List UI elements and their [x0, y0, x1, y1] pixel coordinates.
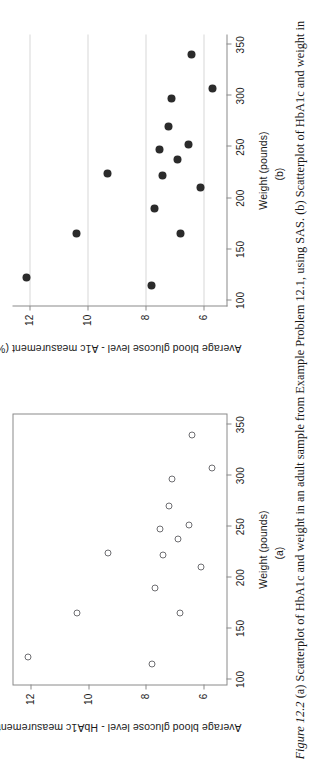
y-tick-label: 8 — [140, 314, 151, 333]
data-point — [156, 525, 163, 532]
data-point — [187, 50, 195, 58]
x-tick-label: 250 — [234, 138, 245, 155]
y-tick-label: 6 — [197, 314, 208, 333]
panel-label-a: (a) — [272, 546, 284, 559]
data-point — [176, 609, 183, 616]
y-tick-label: 6 — [197, 693, 208, 712]
x-tick-label: 150 — [234, 619, 245, 636]
y-tick-label: 12 — [25, 693, 36, 712]
x-tick — [226, 43, 231, 44]
y-tick — [29, 305, 30, 310]
x-tick-label: 100 — [234, 291, 245, 308]
y-tick — [30, 684, 31, 689]
data-point — [165, 502, 172, 509]
data-point — [167, 94, 175, 102]
data-point — [147, 281, 155, 289]
data-point — [176, 229, 184, 237]
x-tick — [226, 423, 231, 424]
data-point — [151, 584, 158, 591]
data-point — [184, 140, 192, 148]
x-tick — [226, 525, 231, 526]
x-axis-title-b: Weight (pounds) — [256, 34, 268, 306]
data-point — [197, 563, 204, 570]
data-point — [72, 229, 80, 237]
data-point — [155, 145, 163, 153]
x-tick — [226, 94, 231, 95]
y-tick — [203, 305, 204, 310]
y-tick — [87, 305, 88, 310]
data-point — [150, 204, 158, 212]
y-tick — [145, 684, 146, 689]
data-point — [73, 609, 80, 616]
data-point — [103, 169, 111, 177]
y-axis-title-a: Average blood glucose level - HbA1c meas… — [9, 721, 241, 733]
data-point — [22, 273, 30, 281]
x-tick-label: 200 — [234, 189, 245, 206]
x-tick — [226, 299, 231, 300]
x-tick — [226, 678, 231, 679]
plot-area-a: 100150200250300350681012 — [12, 413, 227, 685]
x-tick — [226, 146, 231, 147]
x-tick-label: 350 — [234, 36, 245, 53]
figure-number: Figure 12.2 — [292, 701, 306, 759]
gridline — [29, 34, 30, 305]
x-tick-label: 300 — [234, 87, 245, 104]
x-tick-label: 250 — [234, 517, 245, 534]
gridline — [145, 34, 146, 305]
panel-label-b: (b) — [272, 167, 284, 180]
x-tick-label: 150 — [234, 240, 245, 257]
data-point — [159, 551, 166, 558]
data-point — [174, 535, 181, 542]
data-point — [158, 171, 166, 179]
data-point — [188, 431, 195, 438]
y-tick-label: 10 — [82, 314, 93, 333]
gridline — [203, 34, 204, 305]
figure-12-2: 100150200250300350681012 Weight (pounds)… — [0, 0, 327, 759]
data-point — [104, 549, 111, 556]
x-tick-label: 350 — [234, 416, 245, 433]
y-tick-label: 8 — [140, 693, 151, 712]
x-tick-label: 100 — [234, 670, 245, 687]
x-tick-label: 300 — [234, 466, 245, 483]
y-tick — [88, 684, 89, 689]
x-axis-title-a: Weight (pounds) — [256, 413, 268, 685]
panels-row: 100150200250300350681012 Weight (pounds)… — [0, 0, 282, 759]
data-point — [24, 653, 31, 660]
figure-canvas: 100150200250300350681012 Weight (pounds)… — [0, 0, 327, 759]
y-axis-title-b: Average blood glucose level - A1c measur… — [9, 342, 241, 354]
panel-b: 100150200250300350681012 Weight (pounds)… — [0, 1, 282, 380]
y-tick — [203, 684, 204, 689]
data-point — [164, 122, 172, 130]
figure-caption: Figure 12.2 (a) Scatterplot of HbA1c and… — [292, 0, 308, 759]
panel-a: 100150200250300350681012 Weight (pounds)… — [0, 380, 282, 759]
data-point — [185, 521, 192, 528]
x-tick — [226, 474, 231, 475]
y-tick-label: 12 — [24, 314, 35, 333]
data-point — [208, 84, 216, 92]
y-tick-label: 10 — [82, 693, 93, 712]
figure-caption-text: (a) Scatterplot of HbA1c and weight in a… — [292, 20, 306, 701]
data-point — [196, 183, 204, 191]
data-point — [168, 475, 175, 482]
data-point — [173, 155, 181, 163]
data-point — [208, 465, 215, 472]
x-tick-label: 200 — [234, 568, 245, 585]
x-tick — [226, 197, 231, 198]
plot-area-b: 100150200250300350681012 — [12, 34, 227, 306]
data-point — [148, 660, 155, 667]
x-tick — [226, 627, 231, 628]
x-tick — [226, 576, 231, 577]
x-tick — [226, 248, 231, 249]
gridline — [87, 34, 88, 305]
y-tick — [145, 305, 146, 310]
